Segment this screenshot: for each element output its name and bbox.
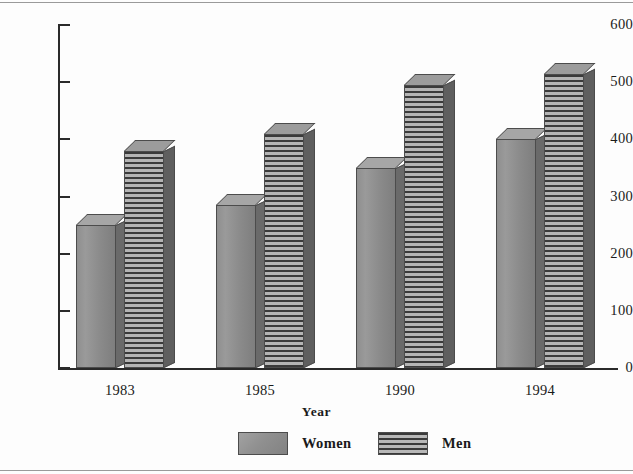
y-tick-label: 600 — [587, 17, 633, 32]
plot-area: 0100200300400500600 1983198519901994 Yea… — [0, 0, 633, 474]
bar-side-face — [304, 128, 315, 368]
bar-front-face — [76, 225, 116, 368]
bar-1983-women — [76, 225, 116, 368]
chart-container: 0100200300400500600 1983198519901994 Yea… — [0, 0, 633, 474]
bar-1994-men — [544, 74, 584, 368]
bar-side-face — [584, 68, 595, 368]
bar-front-face — [264, 134, 304, 368]
legend-item-women[interactable]: Women — [238, 432, 352, 455]
legend-swatch-women-icon — [238, 432, 288, 455]
bar-front-face — [404, 85, 444, 368]
x-tick-label-1983: 1983 — [75, 382, 165, 399]
chart-legend: Women Men — [0, 432, 633, 462]
bar-1985-women — [216, 205, 256, 368]
y-tick-mark — [58, 310, 70, 312]
y-tick-mark — [58, 24, 70, 26]
bar-1983-men — [124, 151, 164, 368]
y-tick-mark — [58, 196, 70, 198]
bar-front-face — [124, 151, 164, 368]
bar-front-face — [356, 168, 396, 368]
x-axis-line — [58, 368, 618, 370]
bar-front-face — [496, 139, 536, 368]
bar-front-face — [544, 74, 584, 368]
legend-swatch-men-icon — [378, 432, 428, 455]
y-tick-mark — [58, 138, 70, 140]
bar-front-face — [216, 205, 256, 368]
bar-1994-women — [496, 139, 536, 368]
x-tick-label-1990: 1990 — [355, 382, 445, 399]
legend-item-men[interactable]: Men — [378, 432, 471, 455]
bar-side-face — [164, 145, 175, 368]
bar-1985-men — [264, 134, 304, 368]
y-tick-mark — [58, 81, 70, 83]
y-tick-mark — [58, 367, 70, 369]
bar-1990-women — [356, 168, 396, 368]
legend-label-men: Men — [442, 435, 471, 452]
x-axis-title: Year — [0, 404, 633, 420]
x-tick-label-1985: 1985 — [215, 382, 305, 399]
legend-label-women: Women — [302, 435, 352, 452]
bar-1990-men — [404, 85, 444, 368]
bar-side-face — [444, 80, 455, 368]
x-tick-label-1994: 1994 — [495, 382, 585, 399]
y-tick-mark — [58, 253, 70, 255]
